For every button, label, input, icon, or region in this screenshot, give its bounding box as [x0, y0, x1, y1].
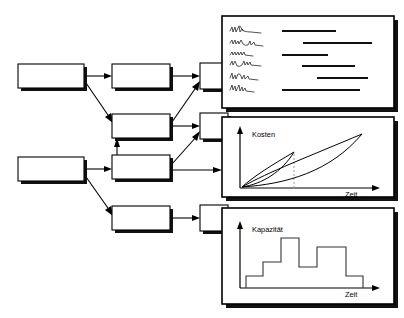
connector-r2c2-to-r1c3	[172, 81, 200, 122]
panel-kapazitaet[interactable]: Kapazität Zeit	[222, 208, 398, 308]
flow-box-r1-c2[interactable]	[112, 64, 173, 91]
kapazitaet-y-axis-label: Kapazität	[252, 225, 283, 234]
connector-r2c2-to-r2c3	[172, 123, 200, 129]
connector-r1c1-to-r1c2	[86, 73, 112, 79]
kosten-x-axis-label: Zeit	[345, 190, 357, 199]
kosten-y-axis-label: Kosten	[252, 130, 275, 139]
connector-r1c1-to-r2c2	[84, 80, 113, 123]
panel-gantt-schedule[interactable]	[222, 16, 398, 112]
flow-box-r4-c2[interactable]	[112, 206, 173, 233]
connector-group	[84, 73, 222, 221]
diagram-canvas: Kosten Zeit Kapazität Zeit	[0, 0, 404, 318]
flow-diagram-svg: Kosten Zeit Kapazität Zeit	[0, 0, 404, 318]
flow-box-r2-c2[interactable]	[112, 114, 173, 141]
connector-r4c2-to-r4c3	[172, 215, 200, 221]
connector-r3c2-to-r2c3	[172, 131, 200, 164]
connector-r3c2-to-kosten-panel	[172, 167, 222, 173]
flow-box-r1-c1[interactable]	[18, 64, 87, 91]
flow-box-r3-c1[interactable]	[18, 157, 87, 184]
connector-r3c1-to-r3c2	[86, 166, 112, 172]
panel-kosten[interactable]: Kosten Zeit	[222, 117, 398, 201]
connector-r1c2-to-r1c3	[172, 73, 200, 79]
flow-box-r3-c2[interactable]	[112, 155, 173, 182]
kapazitaet-x-axis-label: Zeit	[345, 290, 357, 299]
connector-r3c1-to-r4c2	[84, 174, 113, 216]
